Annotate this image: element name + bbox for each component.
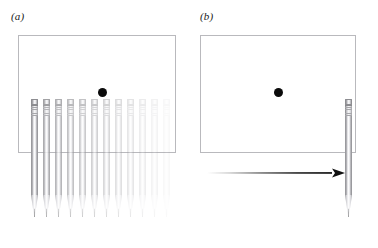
pencil-ferrule-band xyxy=(151,107,158,108)
pencil-ferrule-band xyxy=(139,113,146,114)
pencil-ferrule-band xyxy=(139,107,146,108)
pencil-eraser xyxy=(127,99,134,105)
pencil-ferrule-band xyxy=(43,115,50,116)
panel-a: (a) xyxy=(0,0,189,248)
pencil-ferrule-band xyxy=(127,113,134,114)
pencil-ferrule-band xyxy=(115,109,122,110)
pencil-ferrule-band xyxy=(345,109,352,110)
pencil-eraser xyxy=(91,99,98,105)
pencil-ferrule-band xyxy=(163,109,170,110)
panel-b: (b) xyxy=(189,0,378,248)
pencil-ferrule-band xyxy=(115,115,122,116)
pencil-ferrule-band xyxy=(67,107,74,108)
pencil-ferrule-band xyxy=(127,109,134,110)
pencil-ferrule-band xyxy=(79,115,86,116)
motion-arrow-icon xyxy=(207,166,345,180)
pencil-ferrule-band xyxy=(151,113,158,114)
panel-b-label: (b) xyxy=(200,10,213,22)
pencil xyxy=(55,99,62,217)
pencil-eraser xyxy=(345,99,352,105)
pencil-ferrule-band xyxy=(127,115,134,116)
pencil-eraser xyxy=(55,99,62,105)
figure-canvas: (a) (b) xyxy=(0,0,378,248)
pencil xyxy=(67,99,74,217)
pencil xyxy=(127,99,134,217)
pencil-ferrule-band xyxy=(31,115,38,116)
panel-a-label: (a) xyxy=(11,10,24,22)
pencil-ferrule-band xyxy=(43,113,50,114)
pencil xyxy=(43,99,50,217)
pencil-ferrule-band xyxy=(345,113,352,114)
pencil-ferrule-band xyxy=(55,115,62,116)
pencil xyxy=(79,99,86,217)
pencil xyxy=(115,99,122,217)
pencil-ferrule-band xyxy=(139,115,146,116)
pencil xyxy=(151,99,158,217)
pencil-ferrule-band xyxy=(55,107,62,108)
pencil-ferrule-band xyxy=(345,107,352,108)
pencil-ferrule-band xyxy=(103,113,110,114)
pencil-ferrule-band xyxy=(115,107,122,108)
pencil xyxy=(139,99,146,217)
panel-b-target-dot xyxy=(274,88,283,97)
pencil-ferrule-band xyxy=(79,109,86,110)
pencil-ferrule-band xyxy=(55,109,62,110)
pencil-ferrule-band xyxy=(31,107,38,108)
pencil-eraser xyxy=(31,99,38,105)
pencil-ferrule-band xyxy=(79,107,86,108)
pencil-ferrule-band xyxy=(43,109,50,110)
pencil-ferrule-band xyxy=(103,109,110,110)
pencil-ferrule-band xyxy=(151,109,158,110)
pencil-ferrule-band xyxy=(91,115,98,116)
pencil-ferrule-band xyxy=(67,115,74,116)
pencil-eraser xyxy=(79,99,86,105)
pencil-eraser xyxy=(43,99,50,105)
pencil-eraser xyxy=(163,99,170,105)
pencil-eraser xyxy=(139,99,146,105)
pencil xyxy=(345,99,352,217)
pencil-ferrule-band xyxy=(103,107,110,108)
pencil-ferrule-band xyxy=(163,113,170,114)
pencil-ferrule-band xyxy=(345,115,352,116)
pencil-ferrule-band xyxy=(139,109,146,110)
pencil-ferrule-band xyxy=(43,107,50,108)
panel-a-target-dot xyxy=(98,88,107,97)
pencil xyxy=(31,99,38,217)
pencil-ferrule-band xyxy=(31,113,38,114)
pencil-eraser xyxy=(151,99,158,105)
pencil xyxy=(163,99,170,217)
pencil-ferrule-band xyxy=(91,113,98,114)
pencil xyxy=(91,99,98,217)
pencil-ferrule-band xyxy=(127,107,134,108)
pencil-eraser xyxy=(103,99,110,105)
pencil-ferrule-band xyxy=(31,109,38,110)
pencil-ferrule-band xyxy=(67,109,74,110)
pencil-ferrule-band xyxy=(79,113,86,114)
pencil xyxy=(103,99,110,217)
pencil-ferrule-band xyxy=(151,115,158,116)
pencil-ferrule-band xyxy=(163,107,170,108)
pencil-ferrule-band xyxy=(163,115,170,116)
pencil-ferrule-band xyxy=(55,113,62,114)
pencil-ferrule-band xyxy=(115,113,122,114)
pencil-ferrule-band xyxy=(91,109,98,110)
pencil-ferrule-band xyxy=(67,113,74,114)
pencil-ferrule-band xyxy=(103,115,110,116)
pencil-eraser xyxy=(67,99,74,105)
pencil-ferrule-band xyxy=(91,107,98,108)
pencil-eraser xyxy=(115,99,122,105)
